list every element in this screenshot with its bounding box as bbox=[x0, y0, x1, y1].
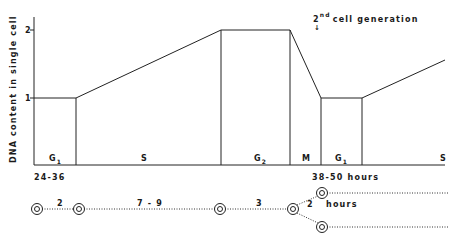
phase-label-s: S bbox=[141, 154, 148, 163]
interval-label-s: 7 - 9 bbox=[137, 199, 163, 208]
interval-unit: hours bbox=[326, 200, 358, 209]
first-generation-duration: 24-36 bbox=[34, 173, 66, 182]
interval-label-g1: 2 bbox=[57, 199, 64, 208]
y-tick-label-2: 2 bbox=[25, 26, 32, 35]
phase-label-g1: G1 bbox=[49, 154, 62, 165]
y-tick-label-1: 1 bbox=[25, 94, 32, 103]
cell-circle bbox=[215, 204, 226, 215]
y-axis-label: DNA content in single cell bbox=[9, 15, 18, 163]
annotation-generation: 2ndcell generation bbox=[313, 11, 419, 24]
phase-label-g1-second: G1 bbox=[335, 154, 348, 165]
phase-label-s-second: S bbox=[440, 154, 447, 163]
phase-label-g2: G2 bbox=[254, 154, 267, 165]
interval-label-m: 2 bbox=[307, 200, 314, 209]
dna-content-curve bbox=[34, 30, 445, 98]
daughter-cell-circle bbox=[317, 222, 328, 233]
interval-label-g2: 3 bbox=[256, 199, 263, 208]
cell-cycle-diagram: DNA content in single cell 2 1 G1 S G2 M… bbox=[0, 0, 456, 242]
daughter-cell-circle bbox=[317, 188, 328, 199]
cell-circle bbox=[32, 204, 43, 215]
arrow-down-icon: ↓ bbox=[314, 24, 321, 32]
second-generation-duration: 38-50 hours bbox=[312, 173, 379, 182]
phase-label-m: M bbox=[302, 154, 311, 163]
timeline-connectors bbox=[42, 193, 448, 227]
cell-circle bbox=[74, 204, 85, 215]
cell-circle bbox=[288, 204, 299, 215]
